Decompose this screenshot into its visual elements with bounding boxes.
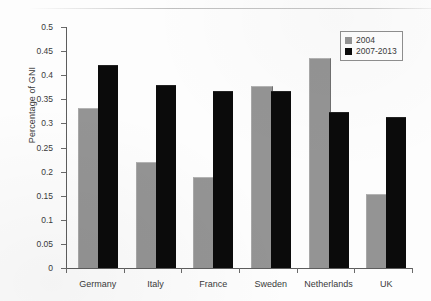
legend-item: 2004 [345,35,397,46]
bar-france-2007-2013 [213,91,233,268]
y-axis-tick: 0.25 [61,148,66,149]
bar-uk-2007-2013 [386,117,406,268]
bar-netherlands-2007-2013 [329,112,349,268]
scan-artifact-line [28,8,431,9]
y-axis-tick-label: 0.5 [19,22,53,32]
legend-item: 2007-2013 [345,46,397,57]
y-axis-tick: 0.1 [61,220,66,221]
y-axis-tick: 0.2 [61,172,66,173]
category-label-uk: UK [380,279,393,289]
y-axis-tick-label: 0.45 [19,46,53,56]
x-axis-tick [124,268,125,273]
bar-sweden-2004 [251,86,273,268]
y-axis-tick: 0.45 [61,51,66,52]
bar-germany-2004 [78,108,100,268]
y-axis-tick-label: 0.4 [19,70,53,80]
y-axis-tick-label: 0.15 [19,191,53,201]
y-axis-line [66,27,67,268]
y-axis-tick-label: 0.25 [19,143,53,153]
y-axis-tick-label: 0.3 [19,118,53,128]
bar-uk-2004 [366,194,388,268]
legend-swatch-icon [345,48,352,55]
x-axis-tick [181,268,182,273]
y-axis-tick: 0.3 [61,123,66,124]
y-axis-tick: 0.35 [61,99,66,100]
x-axis-tick [297,268,298,273]
y-axis-tick-label: 0.35 [19,94,53,104]
x-axis-tick [354,268,355,273]
y-axis-tick-label: 0.1 [19,215,53,225]
legend-item-label: 2007-2013 [356,46,397,57]
chart-screenshot: Percentage of GNI 00.050.10.150.20.250.3… [0,0,431,301]
y-axis-tick: 0.05 [61,244,66,245]
category-label-germany: Germany [79,279,116,289]
bar-italy-2004 [136,162,158,268]
bar-sweden-2007-2013 [271,91,291,268]
x-axis-tick [412,268,413,273]
bar-france-2004 [193,177,215,268]
category-label-france: France [199,279,227,289]
x-axis-tick [239,268,240,273]
bar-netherlands-2004 [309,58,331,268]
category-label-italy: Italy [147,279,164,289]
y-axis-tick: 0.4 [61,75,66,76]
category-label-netherlands: Netherlands [304,279,353,289]
x-axis-tick [66,268,67,273]
y-axis-tick: 0.15 [61,196,66,197]
legend-item-label: 2004 [356,35,375,46]
chart-legend: 2004 2007-2013 [340,31,403,61]
bar-germany-2007-2013 [98,65,118,268]
legend-swatch-icon [345,37,352,44]
y-axis-tick-label: 0 [19,263,53,273]
category-label-sweden: Sweden [255,279,288,289]
y-axis-tick-label: 0.2 [19,167,53,177]
y-axis-tick: 0.5 [61,27,66,28]
bar-italy-2007-2013 [156,85,176,268]
plot-area: 00.050.10.150.20.250.30.350.40.450.5 Ger… [66,27,412,268]
y-axis-tick-label: 0.05 [19,239,53,249]
